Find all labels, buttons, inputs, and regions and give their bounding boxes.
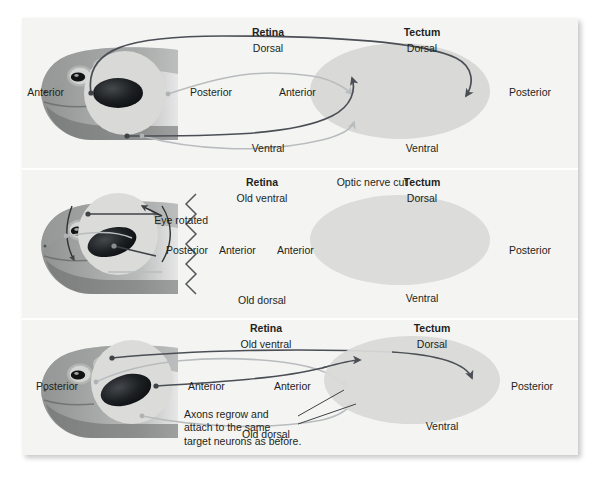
axon-regrowth-annotation: Axons regrow and attach to the same targ… xyxy=(184,408,301,448)
ganglion-dot-4 xyxy=(140,414,145,419)
tectum-anterior-label: Anterior xyxy=(277,244,314,256)
tectum-ventral-label: Ventral xyxy=(406,292,439,304)
tectum-anterior-label: Anterior xyxy=(274,380,311,392)
figure-card: Retina Dorsal Ventral Anterior Posterior… xyxy=(22,18,578,455)
tectum-shape xyxy=(310,195,490,285)
tectum-shape xyxy=(324,336,500,424)
eye-rotated-label: Eye rotated xyxy=(154,214,208,226)
tectum-title: Tectum xyxy=(404,26,441,38)
retina-title: Retina xyxy=(250,322,282,334)
tectum-title: Tectum xyxy=(414,322,451,334)
annotation-leader-2 xyxy=(298,404,356,424)
retina-title: Retina xyxy=(252,26,284,38)
tectum-posterior-label: Posterior xyxy=(509,86,551,98)
ganglion-dot-3 xyxy=(94,380,99,385)
retina-ventral-label: Ventral xyxy=(252,142,285,154)
retina-posterior-label: Posterior xyxy=(166,244,208,256)
tectum-dorsal-label: Dorsal xyxy=(407,192,437,204)
tectum-title: Tectum xyxy=(404,176,441,188)
ganglion-dot-1 xyxy=(109,355,114,360)
panel-eye-rotated-nerve-cut: Retina Old ventral Old dorsal Eye rotate… xyxy=(22,170,578,318)
retina-pupil xyxy=(93,78,143,108)
retina-anterior-label: Anterior xyxy=(27,86,64,98)
tectum-dorsal-label: Dorsal xyxy=(407,42,437,54)
ganglion-dot-3 xyxy=(166,92,171,97)
tectum-dorsal-label: Dorsal xyxy=(417,338,447,350)
ganglion-dot-3 xyxy=(111,243,116,248)
tectum-posterior-label: Posterior xyxy=(511,380,553,392)
ganglion-dot-1 xyxy=(85,211,90,216)
retina-old-dorsal-label: Old dorsal xyxy=(238,294,286,306)
retina-posterior-label: Posterior xyxy=(36,380,78,392)
optic-nerve-cut-label: Optic nerve cut xyxy=(337,176,408,188)
tectum-anterior-label: Anterior xyxy=(279,86,316,98)
retina-old-ventral-label: Old ventral xyxy=(241,338,292,350)
tectum-posterior-label: Posterior xyxy=(509,244,551,256)
ganglion-dot-1 xyxy=(88,90,93,95)
retina-posterior-label: Posterior xyxy=(190,86,232,98)
ganglion-dot-2 xyxy=(64,234,69,239)
figure-root: Retina Dorsal Ventral Anterior Posterior… xyxy=(0,0,600,489)
tectum-ventral-label: Ventral xyxy=(426,420,459,432)
retina-dorsal-label: Dorsal xyxy=(253,42,283,54)
panel-axons-regrown: Retina Old ventral Old dorsal Posterior … xyxy=(22,320,578,455)
retina-old-ventral-label: Old ventral xyxy=(237,192,288,204)
ganglion-dot-4 xyxy=(140,134,145,139)
retina-anterior-label: Anterior xyxy=(188,380,225,392)
tectum-shape xyxy=(310,43,490,139)
retina-anterior-label: Anterior xyxy=(219,244,256,256)
ganglion-dot-2 xyxy=(124,133,129,138)
tectum-ventral-label: Ventral xyxy=(406,142,439,154)
ganglion-dot-2 xyxy=(153,383,158,388)
retina-title: Retina xyxy=(246,176,278,188)
panel-normal-projection: Retina Dorsal Ventral Anterior Posterior… xyxy=(22,18,578,168)
